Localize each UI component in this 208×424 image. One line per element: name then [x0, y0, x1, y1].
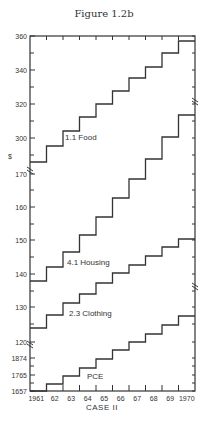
series-label-pce: PCE	[87, 372, 103, 381]
y-tick-label: 340	[15, 67, 27, 74]
y-tick-label: 150	[15, 237, 27, 244]
x-tick-label: 68	[150, 395, 158, 402]
y-tick-label: 160	[15, 204, 27, 211]
x-tick-label: 64	[84, 395, 92, 402]
y-tick-label: 130	[15, 304, 27, 311]
y-tick-label: 360	[15, 33, 27, 40]
y-tick-label: 1874	[11, 355, 27, 362]
x-tick-label: 63	[67, 395, 75, 402]
y-tick-label: 320	[15, 101, 27, 108]
x-axis-label: CASE II	[86, 403, 118, 412]
x-tick-label: 1961	[28, 395, 44, 402]
series-label-food: 1.1 Food	[65, 133, 97, 142]
x-tick-label: 66	[117, 395, 125, 402]
series-group	[30, 41, 195, 391]
x-tick-label: 62	[51, 395, 59, 402]
series-line-clothing	[30, 239, 195, 328]
series-label-housing: 4.1 Housing	[67, 258, 110, 267]
y-axis: 3603403203001701601501401301201874176516…	[11, 33, 198, 395]
y-tick-label: 170	[15, 171, 27, 178]
x-tick-label: 65	[100, 395, 108, 402]
x-tick-label: 67	[133, 395, 141, 402]
x-tick-label: 1970	[179, 395, 195, 402]
series-label-clothing: 2.3 Clothing	[69, 309, 112, 318]
series-line-housing	[30, 115, 195, 281]
y-tick-label: 1657	[11, 388, 27, 395]
y-axis-unit-label: $	[8, 153, 12, 160]
y-tick-label: 120	[15, 339, 27, 346]
series-line-pce	[30, 316, 195, 391]
x-tick-label: 69	[166, 395, 174, 402]
series-line-food	[30, 41, 195, 162]
y-tick-label: 300	[15, 135, 27, 142]
step-chart: 3603403203001701601501401301201874176516…	[0, 0, 208, 424]
y-tick-label: 1765	[11, 372, 27, 379]
x-axis: 196162636465666768691970	[28, 36, 194, 402]
y-tick-label: 140	[15, 271, 27, 278]
